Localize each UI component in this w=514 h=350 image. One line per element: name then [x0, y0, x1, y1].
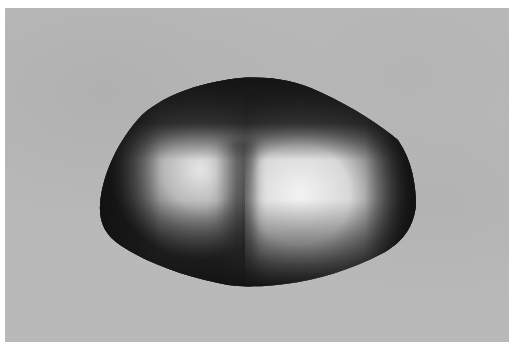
- dome-shading: [90, 70, 430, 300]
- dome-surface: [0, 0, 514, 350]
